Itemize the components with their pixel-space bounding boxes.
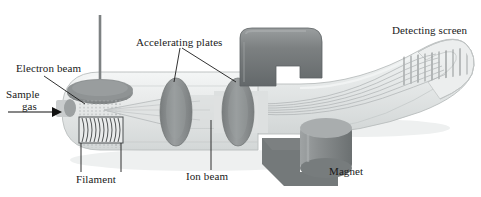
- label-accelerating-plates: Accelerating plates: [136, 36, 223, 48]
- label-sample-gas-line2: gas: [22, 100, 37, 113]
- label-detecting-screen: Detecting screen: [392, 24, 467, 36]
- label-ion-beam: Ion beam: [186, 170, 228, 182]
- mass-spectrometer-diagram: Electron beam Sample gas Filament Accele…: [0, 0, 481, 197]
- label-magnet: Magnet: [329, 165, 363, 177]
- magnet-top: [240, 28, 322, 86]
- label-filament: Filament: [76, 173, 116, 185]
- accelerating-plate-second: [222, 78, 254, 146]
- label-sample-gas-line1: Sample: [6, 88, 40, 101]
- electron-source: [67, 15, 133, 104]
- filament-coil-icon: [79, 117, 123, 143]
- sample-gas-inlet: [56, 99, 76, 117]
- accelerating-plate-first: [160, 78, 192, 146]
- label-electron-beam: Electron beam: [16, 62, 81, 74]
